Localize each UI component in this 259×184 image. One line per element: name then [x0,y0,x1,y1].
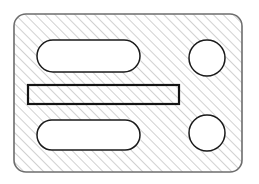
upper-obround-slot [37,40,140,72]
upper-circular-bore [189,40,225,76]
section-drawing-svg [0,0,259,184]
lower-obround-slot [37,120,140,150]
lower-circular-bore [189,115,225,151]
technical-drawing-canvas [0,0,259,184]
